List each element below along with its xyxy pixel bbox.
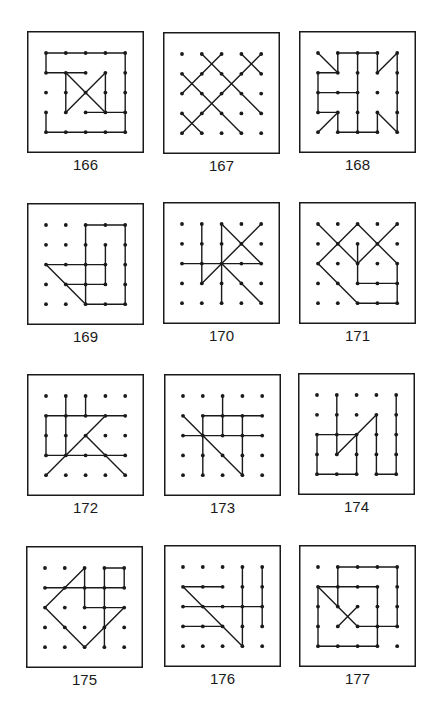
- grid-dot: [180, 52, 184, 56]
- grid-dot: [123, 414, 127, 418]
- grid-dot: [336, 242, 340, 246]
- grid-dot: [123, 243, 127, 247]
- line-segment: [318, 112, 338, 132]
- grid-dot: [181, 394, 185, 398]
- grid-dot: [259, 72, 263, 76]
- grid-dot: [240, 131, 244, 135]
- puzzle-175: 175: [26, 546, 143, 696]
- grid-dot: [103, 586, 107, 590]
- grid-dot: [259, 242, 263, 246]
- grid-dot: [181, 565, 185, 569]
- grid-dot: [181, 605, 185, 609]
- grid-dot: [104, 283, 108, 287]
- grid-dot: [201, 394, 205, 398]
- grid-dot: [316, 625, 320, 629]
- line-segment: [377, 112, 397, 132]
- grid-dot: [356, 51, 360, 55]
- grid-dot: [63, 626, 67, 630]
- grid-dot: [395, 51, 399, 55]
- grid-dot: [44, 434, 48, 438]
- grid-dot: [83, 626, 87, 630]
- grid-dot: [201, 605, 205, 609]
- grid-dot: [221, 473, 225, 477]
- grid-dot: [64, 414, 68, 418]
- grid-dot: [104, 243, 108, 247]
- grid-dot: [123, 454, 127, 458]
- grid-dot: [221, 625, 225, 629]
- grid-dot: [336, 605, 340, 609]
- grid-dot: [103, 606, 107, 610]
- grid-dot: [241, 644, 245, 648]
- grid-dot: [241, 454, 245, 458]
- grid-dot: [394, 453, 398, 457]
- puzzle-number: 170: [163, 327, 280, 345]
- grid-dot: [84, 473, 88, 477]
- grid-dot: [395, 565, 399, 569]
- dot-grid-board: [298, 373, 415, 495]
- puzzle-number: 171: [299, 327, 416, 345]
- grid-dot: [259, 92, 263, 96]
- grid-dot: [356, 71, 360, 75]
- grid-dot: [375, 393, 379, 397]
- grid-dot: [395, 130, 399, 134]
- grid-dot: [220, 242, 224, 246]
- grid-dot: [84, 263, 88, 267]
- grid-dot: [336, 282, 340, 286]
- grid-dot: [316, 111, 320, 115]
- grid-dot: [376, 301, 380, 305]
- dot-grid-board: [163, 202, 280, 324]
- grid-dot: [240, 301, 244, 305]
- puzzle-170: 170: [163, 202, 280, 352]
- grid-dot: [201, 434, 205, 438]
- grid-dot: [336, 262, 340, 266]
- grid-dot: [315, 472, 319, 476]
- grid-dot: [220, 72, 224, 76]
- grid-dot: [259, 222, 263, 226]
- grid-dot: [44, 302, 48, 306]
- grid-dot: [395, 111, 399, 115]
- grid-dot: [180, 301, 184, 305]
- grid-dot: [200, 72, 204, 76]
- grid-dot: [221, 565, 225, 569]
- grid-dot: [356, 644, 360, 648]
- grid-dot: [201, 625, 205, 629]
- grid-dot: [44, 130, 48, 134]
- puzzle-number: 175: [26, 671, 143, 689]
- grid-dot: [43, 606, 47, 610]
- grid-dot: [260, 454, 264, 458]
- puzzle-172: 172: [27, 374, 144, 524]
- grid-dot: [200, 222, 204, 226]
- grid-dot: [316, 585, 320, 589]
- grid-dot: [44, 473, 48, 477]
- grid-dot: [64, 263, 68, 267]
- grid-dot: [356, 91, 360, 95]
- grid-dot: [104, 454, 108, 458]
- grid-dot: [395, 71, 399, 75]
- grid-dot: [336, 644, 340, 648]
- grid-dot: [84, 283, 88, 287]
- grid-dot: [44, 243, 48, 247]
- grid-dot: [260, 585, 264, 589]
- grid-dot: [221, 644, 225, 648]
- puzzle-number: 172: [27, 499, 144, 517]
- grid-dot: [83, 586, 87, 590]
- puzzle-173: 173: [164, 374, 281, 524]
- grid-dot: [336, 111, 340, 115]
- grid-dot: [84, 302, 88, 306]
- grid-dot: [64, 283, 68, 287]
- grid-dot: [180, 222, 184, 226]
- grid-dot: [335, 453, 339, 457]
- grid-dot: [200, 242, 204, 246]
- grid-dot: [63, 606, 67, 610]
- grid-dot: [123, 394, 127, 398]
- grid-dot: [394, 433, 398, 437]
- line-segment: [183, 587, 242, 646]
- grid-dot: [43, 645, 47, 649]
- dot-grid-board: [164, 545, 281, 667]
- grid-dot: [64, 434, 68, 438]
- grid-dot: [395, 625, 399, 629]
- grid-dot: [64, 302, 68, 306]
- grid-dot: [375, 453, 379, 457]
- grid-dot: [201, 414, 205, 418]
- grid-dot: [104, 130, 108, 134]
